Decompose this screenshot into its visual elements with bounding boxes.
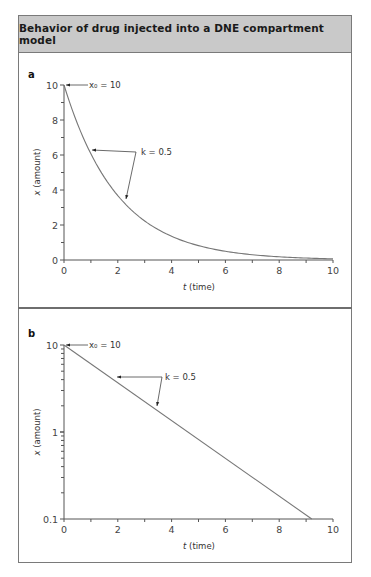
panel-b-k-arrow-2: [157, 377, 162, 406]
x-tick-label: 10: [327, 524, 339, 535]
y-tick-label: 4: [52, 185, 58, 196]
y-tick-label: 6: [52, 150, 58, 161]
panel-a-k-label: k = 0.5: [141, 147, 172, 157]
panel-a-k-arrow-2: [126, 152, 136, 199]
x-tick-label: 8: [276, 265, 282, 276]
panel-a-y-ticks: 0246810: [46, 80, 64, 266]
y-tick-label: 10: [46, 340, 58, 351]
y-tick-label: 0: [52, 255, 58, 266]
x-tick-label: 2: [115, 524, 121, 535]
chart-canvas: a 0246810 0246810 x₀ = 10 k = 0.5 t (tim…: [0, 0, 371, 577]
panel-a-x-ticks: 0246810: [61, 260, 339, 276]
panel-a-decay-curve: [64, 85, 333, 259]
panel-a-x0-label: x₀ = 10: [89, 80, 121, 90]
panel-b-k-label: k = 0.5: [165, 372, 196, 382]
x-tick-label: 4: [169, 265, 175, 276]
x-tick-label: 6: [222, 524, 228, 535]
panel-b-x-axis-label: t (time): [183, 541, 215, 551]
y-tick-label: 2: [52, 220, 58, 231]
x-tick-label: 8: [276, 524, 282, 535]
x-tick-label: 0: [61, 265, 67, 276]
x-tick-label: 4: [169, 524, 175, 535]
panel-a-x-axis-label: t (time): [183, 282, 215, 292]
x-tick-label: 2: [115, 265, 121, 276]
panel-b-y-ticks: 0.1110: [43, 340, 64, 525]
panel-a-k-arrow-1: [92, 150, 136, 152]
panel-b-x0-label: x₀ = 10: [89, 340, 121, 350]
y-tick-label: 1: [52, 427, 58, 438]
x-tick-label: 10: [327, 265, 339, 276]
panel-b-label: b: [28, 328, 35, 339]
x-tick-label: 0: [61, 524, 67, 535]
y-tick-label: 0.1: [43, 514, 58, 525]
panel-a-label: a: [28, 69, 35, 80]
panel-a-linear-plot: a 0246810 0246810 x₀ = 10 k = 0.5 t (tim…: [28, 69, 339, 292]
panel-b-y-axis-label: x (amount): [32, 408, 42, 456]
panel-a-y-axis-label: x (amount): [32, 148, 42, 196]
y-tick-label: 8: [52, 115, 58, 126]
panel-b-x-ticks: 0246810: [61, 519, 339, 535]
y-tick-label: 10: [46, 80, 58, 91]
panel-b-log-plot: b 0.1110 0246810 x₀ = 10 k = 0.5 t (time…: [28, 328, 339, 551]
x-tick-label: 6: [222, 265, 228, 276]
